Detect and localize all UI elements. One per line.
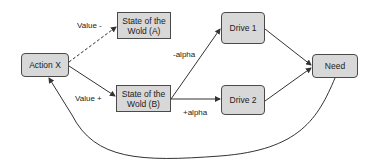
node-label: Drive 2: [230, 95, 257, 105]
edges-layer: [0, 0, 379, 167]
node-label: Drive 1: [230, 23, 257, 33]
node-need: Need: [312, 54, 358, 78]
edge-drive-1-to-need: [265, 29, 311, 65]
edge-state-b-to-drive-1: [171, 29, 220, 99]
edge-need-to-action: [49, 78, 335, 158]
edge-action-to-state-b: [69, 66, 115, 96]
node-state-a: State of the Wold (A): [117, 12, 171, 39]
node-state-b: State of the Wold (B): [116, 85, 171, 112]
edge-label-value-plus: Value +: [75, 94, 102, 103]
edge-label-minus-alpha: -alpha: [173, 50, 195, 59]
edge-drive-2-to-need: [265, 68, 311, 101]
node-drive-2: Drive 2: [221, 85, 265, 115]
node-label: Action X: [29, 60, 61, 70]
node-label: State of the Wold (B): [117, 89, 170, 109]
node-drive-1: Drive 1: [221, 12, 265, 44]
edge-action-to-state-a: [69, 27, 116, 62]
node-action-x: Action X: [21, 53, 69, 77]
node-label: State of the Wold (A): [118, 16, 170, 36]
edge-label-value-minus: Value -: [77, 21, 102, 30]
node-label: Need: [325, 61, 345, 71]
edge-label-plus-alpha: +alpha: [183, 108, 207, 117]
